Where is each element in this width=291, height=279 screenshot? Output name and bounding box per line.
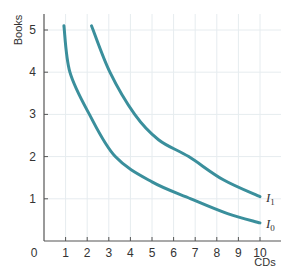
x-tick-label: 5 <box>149 246 156 260</box>
origin-label: 0 <box>31 246 38 260</box>
gridlines <box>44 14 281 241</box>
indifference-curve-i0 <box>64 26 260 223</box>
curves <box>64 26 260 223</box>
axes <box>44 14 281 241</box>
x-tick-label: 6 <box>170 246 177 260</box>
x-tick-label: 9 <box>235 246 242 260</box>
curve-label-i1: I1 <box>265 190 275 207</box>
labels: 12345678910012345CDsBooksI0I1 <box>12 14 276 268</box>
x-tick-label: 4 <box>127 246 134 260</box>
x-tick-label: 2 <box>84 246 91 260</box>
y-tick-label: 1 <box>29 192 36 206</box>
curve-label-subscript: 0 <box>270 223 275 233</box>
x-tick-label: 1 <box>62 246 69 260</box>
curve-label-subscript: 1 <box>270 197 275 207</box>
indifference-curve-i1 <box>92 26 261 197</box>
x-tick-label: 8 <box>213 246 220 260</box>
indifference-curve-chart: 12345678910012345CDsBooksI0I1 <box>0 0 291 279</box>
curve-label-i0: I0 <box>265 216 275 233</box>
y-tick-label: 2 <box>29 150 36 164</box>
x-axis-title: CDs <box>254 256 276 268</box>
x-tick-label: 3 <box>105 246 112 260</box>
y-tick-label: 4 <box>29 65 36 79</box>
y-tick-label: 3 <box>29 107 36 121</box>
x-tick-label: 7 <box>192 246 199 260</box>
y-tick-label: 5 <box>29 23 36 37</box>
y-axis-title: Books <box>12 14 24 45</box>
